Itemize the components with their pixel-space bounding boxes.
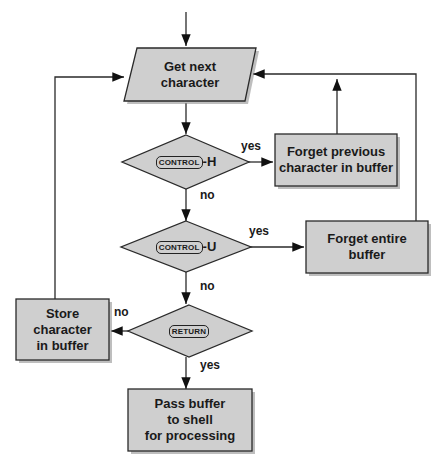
store-character-label: Store character in buffer xyxy=(16,300,109,359)
control-key-icon: CONTROL xyxy=(156,156,203,169)
forget-previous-label: Forget previous character in buffer xyxy=(275,136,397,184)
pass-buffer-label: Pass buffer to shell for processing xyxy=(128,390,252,450)
edge-store-loop xyxy=(55,77,124,300)
ctrl-u-no-label: no xyxy=(200,279,215,293)
ctrl-u-yes-label: yes xyxy=(249,224,269,238)
control-key-icon: CONTROL xyxy=(156,241,203,254)
ctrl-u-label: CONTROL -U xyxy=(130,237,242,257)
return-yes-label: yes xyxy=(200,358,220,372)
forget-entire-label: Forget entire buffer xyxy=(306,223,428,271)
get-next-label: Get next character xyxy=(128,52,252,98)
ctrl-h-label: CONTROL -H xyxy=(130,152,242,172)
ctrl-h-yes-label: yes xyxy=(241,139,261,153)
return-key-icon: RETURN xyxy=(169,325,210,338)
ctrl-h-no-label: no xyxy=(200,188,215,202)
return-no-label: no xyxy=(114,305,129,319)
return-label: RETURN xyxy=(135,321,243,341)
